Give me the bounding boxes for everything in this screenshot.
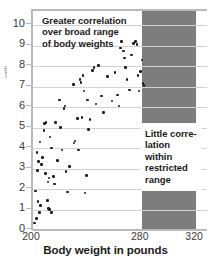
data-point (114, 71, 117, 74)
data-point (130, 54, 133, 57)
y-tick-mark-7 (26, 85, 32, 86)
data-point (49, 136, 52, 139)
data-point (47, 181, 50, 184)
data-point (34, 190, 37, 193)
annotation-line: of body weights (42, 38, 138, 49)
y-tick-mark-10 (26, 23, 32, 24)
annotation-line: restricted (145, 162, 198, 173)
data-point (46, 199, 49, 202)
data-point (39, 204, 42, 207)
data-point (68, 165, 71, 168)
restricted-range-band (142, 11, 196, 230)
data-point (53, 183, 56, 186)
y-tick-label-2: 2 (1, 182, 25, 193)
data-point (66, 191, 69, 194)
annotation-line: Greater correlation (42, 15, 138, 26)
x-tick-label-280: 280 (120, 231, 160, 242)
data-point (41, 156, 44, 159)
data-point (52, 175, 55, 178)
x-axis-title: Body weight in pounds (0, 244, 211, 256)
data-point (95, 103, 98, 106)
annotation-restricted-range: Little corre-lation withinrestrictedrang… (140, 123, 202, 191)
data-point (36, 151, 39, 154)
y-tick-mark-2 (26, 187, 32, 188)
x-tick-label-320: 320 (174, 231, 211, 242)
data-point (39, 141, 42, 144)
y-tick-label-1: 1 (1, 202, 25, 213)
data-point (33, 222, 36, 225)
data-point (77, 149, 80, 152)
x-tick-label-200: 200 (11, 231, 51, 242)
data-point (138, 90, 141, 93)
gridline-y-7 (33, 87, 207, 88)
y-tick-label-10: 10 (1, 18, 25, 29)
y-tick-label-9: 9 (1, 38, 25, 49)
annotation-line: lation within (145, 139, 198, 162)
annotation-line: over broad range (42, 26, 138, 37)
annotation-line: Little corre- (145, 128, 198, 139)
gridline-y-1 (33, 210, 207, 211)
data-point (97, 64, 100, 67)
gridline-y-8 (33, 66, 207, 67)
annotation-broad-range: Greater correlationover broad rangeof bo… (42, 15, 138, 49)
data-point (85, 174, 88, 177)
data-point (87, 128, 90, 131)
y-tick-label-6: 6 (1, 100, 25, 111)
data-point (126, 78, 129, 81)
data-point (35, 217, 38, 220)
data-point (40, 163, 43, 166)
y-tick-mark-6 (26, 105, 32, 106)
data-point (102, 111, 105, 114)
data-point (59, 126, 62, 129)
annotation-line: range (145, 174, 198, 185)
data-point (58, 99, 61, 102)
data-point (111, 100, 114, 103)
data-point (91, 69, 94, 72)
data-point (54, 121, 57, 124)
y-tick-label-7: 7 (1, 79, 25, 90)
data-point (139, 70, 142, 73)
data-point (84, 192, 87, 195)
data-point (100, 95, 103, 98)
data-point (48, 177, 51, 180)
data-point (86, 99, 89, 102)
data-point (122, 50, 125, 53)
data-point (63, 107, 66, 110)
y-tick-mark-5 (26, 126, 32, 127)
data-point (128, 89, 131, 92)
data-point (83, 90, 86, 93)
data-point (80, 81, 83, 84)
data-point (38, 211, 41, 214)
data-point (123, 57, 126, 60)
y-tick-mark-1 (26, 208, 32, 209)
data-point (72, 83, 75, 86)
data-point (61, 149, 64, 152)
data-point (43, 129, 46, 132)
y-tick-mark-3 (26, 167, 32, 168)
data-point (74, 140, 77, 143)
data-point (44, 172, 47, 175)
scatter-chart-figure: Strength Greater correlationover broad r… (0, 0, 211, 261)
y-tick-label-3: 3 (1, 161, 25, 172)
data-point (37, 200, 40, 203)
data-point (81, 116, 84, 119)
y-tick-mark-4 (26, 146, 32, 147)
data-point (36, 169, 39, 172)
y-tick-mark-8 (26, 64, 32, 65)
data-point (45, 121, 48, 124)
y-tick-mark-0 (26, 228, 32, 229)
data-point (137, 74, 140, 77)
data-point (106, 75, 109, 78)
y-tick-label-8: 8 (1, 59, 25, 70)
y-tick-label-5: 5 (1, 120, 25, 131)
data-point (56, 159, 59, 162)
data-point (65, 170, 68, 173)
data-point (50, 211, 53, 214)
data-point (89, 118, 92, 121)
data-point (124, 66, 127, 69)
y-tick-mark-9 (26, 44, 32, 45)
data-point (82, 74, 85, 77)
data-point (116, 94, 119, 97)
gridline-y-6 (33, 107, 207, 108)
data-point (73, 142, 76, 145)
